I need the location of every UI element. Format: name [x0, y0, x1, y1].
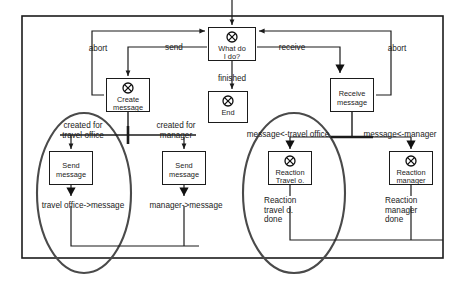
- node-send-message-travel-office[interactable]: Send message: [49, 151, 93, 185]
- edge-label-abort-left: abort: [89, 44, 108, 54]
- node-reaction-travel-office[interactable]: Reaction Travel o.: [268, 151, 312, 185]
- edge-label-travel-office-to-message: travel office->message: [42, 201, 124, 211]
- edge-label-message-from-travel-office: message<-travel office: [247, 130, 329, 140]
- node-send-message-manager[interactable]: Send message: [162, 151, 206, 185]
- circled-x-icon: [208, 95, 248, 107]
- node-label-send-message-manager-line2: message: [163, 171, 205, 179]
- circled-x-icon: [268, 155, 312, 167]
- node-label-reaction-travel-office-line2: Travel o.: [269, 177, 311, 185]
- edge-label-message-from-manager: message<-manager: [363, 130, 436, 140]
- node-label-reaction-manager-line2: manager: [390, 177, 432, 185]
- node-end[interactable]: End: [208, 91, 248, 123]
- edge-label-reaction-travel-office-done: Reactiontravel o.done: [264, 196, 320, 225]
- node-label-what-do-i-do-line2: I do?: [209, 53, 255, 61]
- edge-label-receive: receive: [279, 43, 305, 53]
- node-reaction-manager[interactable]: Reaction manager: [389, 151, 433, 185]
- edge-label-manager-to-message: manager->message: [149, 201, 222, 211]
- circled-x-icon: [209, 31, 255, 43]
- circled-x-icon: [389, 155, 433, 167]
- node-label-end: End: [209, 109, 247, 117]
- edge-label-created-for-manager: created formanager: [145, 121, 207, 140]
- edge-label-send: send: [165, 43, 183, 53]
- node-label-send-message-travel-office-line2: message: [50, 171, 92, 179]
- node-receive-message[interactable]: Receive message: [330, 78, 374, 112]
- circled-x-icon: [106, 82, 150, 94]
- node-create-message[interactable]: Create message: [106, 78, 150, 112]
- edge-label-created-for-travel-office: created fortravel office: [45, 121, 121, 140]
- node-what-do-i-do[interactable]: What do I do?: [208, 27, 256, 61]
- edge-label-reaction-manager-done: Reactionmanagerdone: [385, 196, 441, 225]
- edge-label-abort-right: abort: [388, 44, 407, 54]
- edge-label-finished: finished: [218, 74, 246, 84]
- node-label-create-message-line2: message: [107, 104, 149, 112]
- diagram-canvas: What do I do? Create message End Receive…: [0, 0, 466, 290]
- node-label-receive-message-line2: message: [331, 99, 373, 107]
